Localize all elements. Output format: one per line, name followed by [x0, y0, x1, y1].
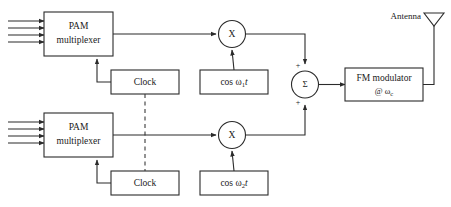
- pam-multiplexer-lower[interactable]: [44, 113, 113, 157]
- wire-oscillator-upper-to-multiplier-upper: [232, 50, 234, 70]
- pam-multiplexer-upper-label-line1: PAM: [69, 21, 89, 31]
- pam-multiplexer-upper[interactable]: [44, 12, 113, 56]
- pam-multiplexer-lower-label-line2: multiplexer: [57, 136, 102, 146]
- wire-multiplier-upper-to-summer: [246, 34, 305, 64]
- clock-upper-label: Clock: [134, 77, 157, 87]
- fm-modulator-label-line1: FM modulator: [356, 73, 412, 83]
- oscillator-upper-prefix: cos: [220, 77, 233, 87]
- pam-multiplexer-upper-label-line2: multiplexer: [57, 35, 102, 45]
- summer-plus-top: +: [296, 61, 301, 70]
- transmitter-block-diagram: PAM multiplexer Clock X cos ω1t +: [0, 0, 451, 207]
- oscillator-upper-time: t: [245, 77, 248, 87]
- wire-oscillator-lower-to-multiplier-lower: [232, 151, 234, 171]
- summer-label: Σ: [302, 79, 307, 89]
- oscillator-lower-prefix: cos: [220, 178, 233, 188]
- oscillator-lower-time: t: [245, 178, 248, 188]
- multiplier-upper-label: X: [229, 29, 236, 39]
- antenna-icon: [424, 13, 444, 26]
- wire-clock-upper-to-pam-upper: [97, 59, 111, 82]
- fm-modulator-at: @: [375, 86, 383, 96]
- wire-multiplier-lower-to-summer: [246, 105, 305, 135]
- upper-pam-input-arrows: [8, 21, 44, 42]
- clock-lower-label: Clock: [134, 178, 157, 188]
- wire-modulator-to-antenna: [423, 26, 434, 85]
- block-diagram-canvas: PAM multiplexer Clock X cos ω1t +: [0, 0, 451, 207]
- wire-clock-lower-to-pam-lower: [97, 160, 111, 183]
- summer-plus-bottom: +: [296, 98, 301, 107]
- lower-pam-input-arrows: [8, 122, 44, 143]
- antenna-label: Antenna: [391, 11, 422, 21]
- fm-modulator-subscript: c: [390, 90, 393, 97]
- multiplier-lower-label: X: [229, 130, 236, 140]
- pam-multiplexer-lower-label-line1: PAM: [69, 122, 89, 132]
